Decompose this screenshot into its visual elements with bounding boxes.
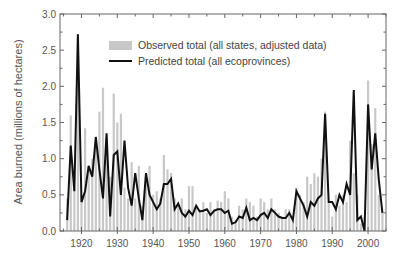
legend-observed-swatch xyxy=(109,41,132,50)
y-tick-label: 3.0 xyxy=(42,9,56,20)
observed-bar xyxy=(166,170,168,231)
observed-bar xyxy=(188,186,190,231)
legend-observed-label: Observed total (all states, adjusted dat… xyxy=(138,39,327,51)
y-tick-label: 1.5 xyxy=(42,117,56,128)
y-axis-title: Area burned (millions of hectares) xyxy=(12,39,24,204)
observed-bar xyxy=(267,209,269,231)
y-tick-label: 0.0 xyxy=(42,226,56,237)
y-tick-label: 2.5 xyxy=(42,45,56,56)
observed-bar xyxy=(306,177,308,231)
observed-bar xyxy=(338,206,340,231)
observed-bar xyxy=(73,188,75,231)
x-tick-label: 1950 xyxy=(178,238,201,249)
legend: Observed total (all states, adjusted dat… xyxy=(109,39,327,67)
observed-bar xyxy=(220,202,222,231)
observed-bar xyxy=(360,224,362,231)
x-tick-label: 1940 xyxy=(142,238,165,249)
x-tick-label: 1970 xyxy=(249,238,272,249)
y-tick-label: 2.0 xyxy=(42,81,56,92)
y-tick-label: 1.0 xyxy=(42,153,56,164)
y-tick-label: 0.5 xyxy=(42,189,56,200)
observed-bar xyxy=(102,88,104,231)
observed-bar xyxy=(353,173,355,231)
observed-bar xyxy=(199,209,201,231)
observed-bar xyxy=(206,213,208,231)
legend-predicted-label: Predicted total (all ecoprovinces) xyxy=(138,55,290,67)
observed-bar xyxy=(191,186,193,231)
observed-bar xyxy=(378,195,380,231)
observed-bar xyxy=(134,198,136,231)
observed-bar xyxy=(217,201,219,231)
observed-bar xyxy=(317,177,319,231)
observed-bar xyxy=(285,209,287,231)
x-tick-label: 1980 xyxy=(285,238,308,249)
observed-bar xyxy=(381,213,383,231)
x-tick-label: 1960 xyxy=(214,238,237,249)
observed-bar xyxy=(245,198,247,231)
observed-bar xyxy=(184,209,186,231)
x-tick-label: 1920 xyxy=(70,238,93,249)
observed-bar xyxy=(328,202,330,231)
observed-bar xyxy=(127,198,129,231)
observed-bar xyxy=(123,188,125,231)
observed-bar xyxy=(263,202,265,231)
area-burned-chart: 0.00.51.01.52.02.53.0 192019301940195019… xyxy=(0,0,408,258)
x-tick-label: 1930 xyxy=(106,238,129,249)
observed-bar xyxy=(202,202,204,231)
observed-bar xyxy=(345,202,347,231)
observed-bar xyxy=(88,170,90,231)
observed-bar xyxy=(270,198,272,231)
x-tick-label: 2000 xyxy=(357,238,380,249)
x-tick-label: 1990 xyxy=(321,238,344,249)
observed-bar xyxy=(116,123,118,232)
observed-bar xyxy=(177,206,179,231)
observed-bar xyxy=(374,108,376,231)
observed-bar xyxy=(335,195,337,231)
observed-bar xyxy=(242,209,244,231)
